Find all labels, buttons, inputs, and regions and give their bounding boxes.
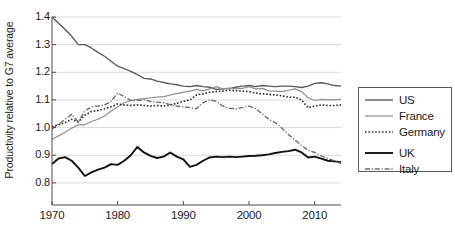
legend-item-germany[interactable]: Germany <box>359 125 453 139</box>
legend-item-italy[interactable]: Italy <box>359 162 453 176</box>
legend-label: Italy <box>399 162 419 176</box>
legend-item-france[interactable]: France <box>359 109 453 123</box>
x-axis-tick-label: 1980 <box>96 209 140 221</box>
legend-line-sample-icon <box>364 146 394 160</box>
legend-line-sample-icon <box>364 109 394 123</box>
x-axis-tick-label: 2010 <box>293 209 337 221</box>
series-line-uk <box>52 147 341 176</box>
legend-item-us[interactable]: US <box>359 93 453 107</box>
legend-line-sample-icon <box>364 162 394 176</box>
x-axis-tick-labels: 19701980199020002010 <box>0 209 455 227</box>
series-line-italy <box>52 93 341 164</box>
x-axis-tick-label: 1990 <box>161 209 205 221</box>
x-axis-tick-label: 2000 <box>227 209 271 221</box>
legend-line-sample-icon <box>364 125 394 139</box>
legend-label: France <box>399 109 434 123</box>
productivity-chart-figure: Productivity relative to G7 average 0.80… <box>0 0 455 248</box>
legend-line-sample-icon <box>364 93 394 107</box>
legend-label: UK <box>399 146 415 160</box>
series-line-us <box>52 17 341 89</box>
legend-item-uk[interactable]: UK <box>359 146 453 160</box>
x-axis-tick-label: 1970 <box>30 209 74 221</box>
legend-label: US <box>399 93 415 107</box>
chart-legend: USFranceGermanyUKItaly <box>358 87 452 172</box>
legend-label: Germany <box>399 125 445 139</box>
